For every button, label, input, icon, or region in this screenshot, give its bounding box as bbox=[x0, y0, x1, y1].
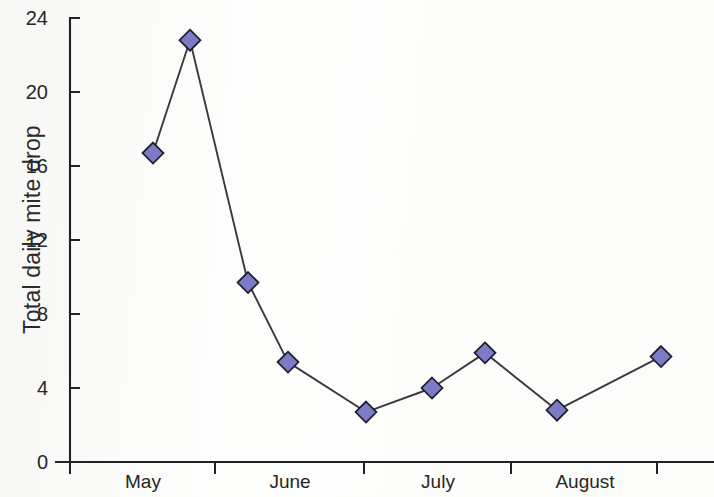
plot-area: Total daily mite drop 24 20 16 12 8 4 0 … bbox=[0, 0, 714, 497]
data-line-series-1 bbox=[153, 40, 661, 412]
data-point-marker-6 bbox=[475, 342, 496, 363]
data-markers-series-1 bbox=[143, 30, 672, 423]
data-point-marker-7 bbox=[547, 400, 568, 421]
data-point-marker-1 bbox=[180, 30, 201, 51]
y-tick-marks bbox=[56, 18, 80, 462]
data-point-marker-0 bbox=[143, 143, 164, 164]
axis-lines bbox=[56, 18, 714, 462]
data-point-marker-2 bbox=[238, 272, 259, 293]
data-point-marker-4 bbox=[356, 402, 377, 423]
data-point-marker-3 bbox=[278, 352, 299, 373]
data-point-marker-5 bbox=[422, 378, 443, 399]
chart-canvas bbox=[0, 0, 714, 497]
chart-figure: Total daily mite drop 24 20 16 12 8 4 0 … bbox=[0, 0, 714, 497]
data-point-marker-8 bbox=[651, 346, 672, 367]
